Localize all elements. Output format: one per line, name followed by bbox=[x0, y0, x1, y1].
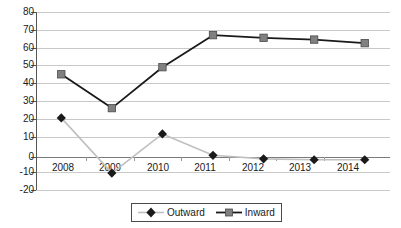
data-point-outward-2012 bbox=[259, 154, 268, 163]
legend-square-icon bbox=[216, 207, 242, 218]
line-chart: 80 70 60 50 40 30 20 10 0 -10 -20 2008 2… bbox=[0, 0, 401, 228]
data-point-inward-2008 bbox=[58, 71, 65, 78]
data-point-inward-2009 bbox=[108, 104, 115, 111]
data-point-outward-2013 bbox=[310, 155, 319, 164]
legend-diamond-icon bbox=[138, 207, 164, 218]
legend-label-outward: Outward bbox=[167, 208, 205, 218]
chart-legend: Outward Inward bbox=[131, 203, 282, 222]
legend-entry-inward[interactable]: Inward bbox=[216, 207, 275, 218]
series-markers-outward bbox=[57, 113, 370, 177]
data-point-inward-2010 bbox=[159, 63, 166, 70]
data-point-outward-2011 bbox=[208, 151, 217, 160]
data-point-inward-2012 bbox=[260, 34, 267, 41]
data-point-inward-2014 bbox=[361, 39, 368, 46]
data-point-outward-2014 bbox=[360, 155, 369, 164]
series-line-outward bbox=[61, 118, 364, 173]
series-line-inward bbox=[61, 35, 364, 108]
series-layer bbox=[0, 0, 401, 228]
series-markers-inward bbox=[58, 31, 369, 111]
data-point-inward-2011 bbox=[209, 31, 216, 38]
data-point-inward-2013 bbox=[310, 36, 317, 43]
legend-label-inward: Inward bbox=[245, 208, 275, 218]
legend-entry-outward[interactable]: Outward bbox=[138, 207, 205, 218]
